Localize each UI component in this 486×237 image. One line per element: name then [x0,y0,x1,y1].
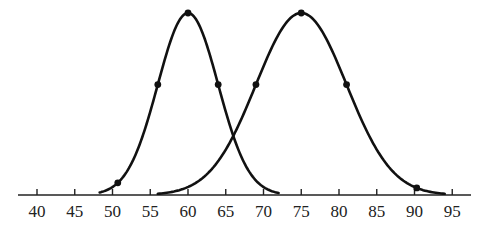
marked-point [298,10,305,17]
x-tick-label: 75 [293,202,310,221]
x-tick-label: 50 [104,202,121,221]
normal-curve-1 [100,13,279,193]
normal-curves-chart: 404550556065707580859095 [0,0,486,237]
x-axis-tick-labels: 404550556065707580859095 [29,202,461,221]
marked-point [215,81,222,88]
marked-point [114,179,121,186]
x-tick-label: 80 [331,202,348,221]
curves [100,13,445,194]
marked-point [343,81,350,88]
x-tick-label: 40 [29,202,46,221]
x-tick-label: 55 [142,202,159,221]
normal-curve-2 [158,13,445,194]
x-tick-label: 45 [66,202,83,221]
marked-point [154,81,161,88]
x-tick-label: 90 [406,202,423,221]
marked-point [185,10,192,17]
x-tick-label: 70 [255,202,272,221]
x-tick-label: 60 [180,202,197,221]
x-tick-label: 65 [217,202,234,221]
marked-point [253,81,260,88]
marked-points [114,10,420,192]
marked-point [413,185,420,192]
x-tick-label: 85 [368,202,385,221]
x-tick-label: 95 [444,202,461,221]
